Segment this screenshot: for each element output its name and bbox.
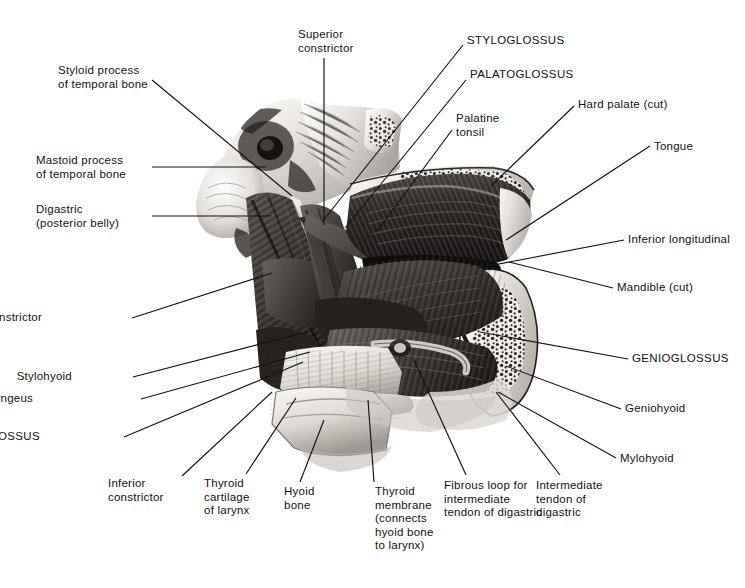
- label-hard-palate-cut: Hard palate (cut): [578, 98, 668, 112]
- label-mastoid-process: Mastoid process of temporal bone: [36, 154, 126, 181]
- label-styloglossus: STYLOGLOSSUS: [467, 34, 564, 48]
- label-thyroid-membrane: Thyroid membrane (connects hyoid bone to…: [375, 485, 434, 553]
- label-genioglossus: GENIOGLOSSUS: [632, 352, 729, 366]
- label-intermediate-tendon: Intermediate tendon of digastric: [536, 479, 603, 520]
- label-inferior-longitudinal: Inferior longitudinal: [628, 233, 730, 247]
- label-digastric-posterior-belly: Digastric (posterior belly): [36, 203, 119, 230]
- label-thyroid-cartilage-of-larynx: Thyroid cartilage of larynx: [204, 477, 250, 518]
- label-palatine-tonsil: Palatine tonsil: [456, 112, 499, 139]
- label-tongue: Tongue: [654, 140, 693, 154]
- label-hyoglossus: HYOGLOSSUS: [0, 430, 40, 444]
- label-styloid-process: Styloid process of temporal bone: [58, 64, 148, 91]
- label-stylohyoid: Stylohyoid: [17, 370, 72, 384]
- label-mandible-cut: Mandible (cut): [617, 281, 693, 295]
- label-layer: Styloid process of temporal boneSuperior…: [0, 0, 745, 588]
- label-palatoglossus: PALATOGLOSSUS: [470, 68, 574, 82]
- label-geniohyoid: Geniohyoid: [625, 402, 685, 416]
- anatomical-figure: Styloid process of temporal boneSuperior…: [0, 0, 745, 588]
- label-hyoid-bone: Hyoid bone: [284, 485, 315, 512]
- label-middle-constrictor: Middle constrictor: [0, 311, 42, 325]
- label-mylohyoid: Mylohyoid: [620, 452, 674, 466]
- label-stylopharyngeus: Stylopharyngeus: [0, 392, 33, 406]
- label-superior-constrictor: Superior constrictor: [298, 28, 354, 55]
- label-fibrous-loop: Fibrous loop for intermediate tendon of …: [444, 479, 542, 520]
- label-inferior-constrictor: Inferior constrictor: [108, 477, 164, 504]
